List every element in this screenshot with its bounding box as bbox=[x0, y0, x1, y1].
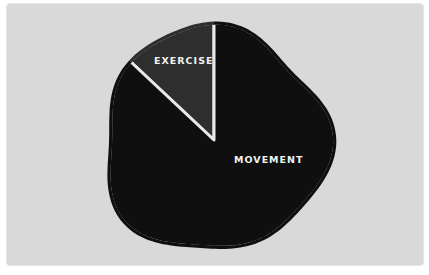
slice-label-exercise: EXERCISE bbox=[154, 55, 213, 66]
pie-chart: EXERCISE MOVEMENT bbox=[0, 0, 429, 275]
slice-label-movement: MOVEMENT bbox=[234, 154, 304, 165]
